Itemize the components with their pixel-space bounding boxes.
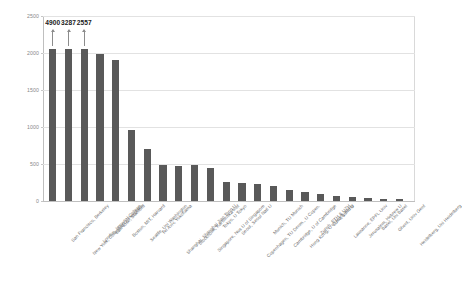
bar-slot[interactable] [191, 16, 198, 201]
y-axis-tick-label: 0 [36, 198, 39, 204]
clipped-value-annotation: 2557 [70, 20, 98, 46]
x-axis-line [43, 201, 415, 202]
up-arrow-icon [52, 30, 53, 47]
up-arrow-icon [84, 30, 85, 47]
bar-slot[interactable] [207, 16, 214, 201]
bar[interactable] [96, 54, 103, 201]
bar[interactable] [191, 165, 198, 201]
bar[interactable] [380, 199, 387, 201]
bar-slot[interactable] [159, 16, 166, 201]
y-axis-tick-label: 2500 [27, 13, 39, 19]
bar-slot[interactable] [238, 16, 245, 201]
x-axis-category-labels: San Francisco, BerkeleyNew York, Columbi… [43, 204, 415, 300]
bar-slot[interactable] [112, 16, 119, 201]
bar[interactable] [301, 192, 308, 201]
bar[interactable] [364, 198, 371, 201]
clipped-value-label: 2557 [77, 20, 92, 27]
bar-slot[interactable] [333, 16, 340, 201]
bar[interactable] [159, 165, 166, 201]
bar[interactable] [349, 197, 356, 201]
bar[interactable] [396, 199, 403, 201]
up-arrow-icon [68, 30, 69, 47]
bar-slot[interactable] [286, 16, 293, 201]
bar-slot[interactable] [270, 16, 277, 201]
y-axis-tick-label: 1500 [27, 87, 39, 93]
bar-slot[interactable] [364, 16, 371, 201]
bar-slot[interactable] [223, 16, 230, 201]
bar-slot[interactable] [349, 16, 356, 201]
bar[interactable] [65, 49, 72, 201]
bar[interactable] [175, 166, 182, 201]
bar[interactable] [144, 149, 151, 201]
bar[interactable] [223, 182, 230, 201]
y-axis-tick-label: 1000 [27, 124, 39, 130]
bar[interactable] [286, 190, 293, 201]
bar-slot[interactable] [254, 16, 261, 201]
bars-layer [43, 16, 415, 201]
bar-slot[interactable] [144, 16, 151, 201]
bar[interactable] [317, 194, 324, 201]
bar[interactable] [81, 49, 88, 201]
bar-slot[interactable] [396, 16, 403, 201]
bar-slot[interactable] [301, 16, 308, 201]
bar-slot[interactable] [175, 16, 182, 201]
bar[interactable] [270, 186, 277, 201]
bar-slot[interactable] [128, 16, 135, 201]
y-axis-tick-label: 2000 [27, 50, 39, 56]
bar[interactable] [254, 184, 261, 201]
bar[interactable] [49, 49, 56, 201]
bar-slot[interactable] [317, 16, 324, 201]
x-axis-category-label: Heidelberg, Uni Heidelberg [419, 204, 462, 247]
y-axis-tick-mark [41, 201, 43, 202]
bar[interactable] [128, 130, 135, 201]
y-axis-tick-label: 500 [30, 161, 39, 167]
bar[interactable] [238, 183, 245, 202]
bar[interactable] [207, 168, 214, 201]
bar[interactable] [112, 60, 119, 201]
bar[interactable] [333, 196, 340, 201]
x-axis-category-label: Stockholm, Karolinska Inst [198, 204, 240, 246]
bar-slot[interactable] [380, 16, 387, 201]
plot-area: 05001000150020002500 490032872557 [43, 16, 415, 202]
